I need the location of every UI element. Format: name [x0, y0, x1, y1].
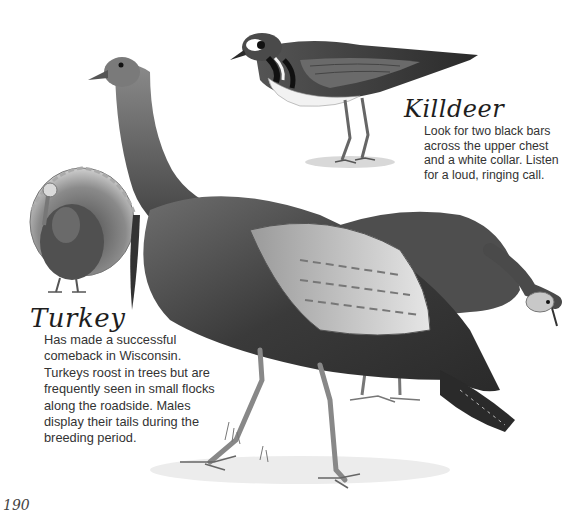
description-line: display their tails during the: [44, 414, 215, 430]
description-line: breeding period.: [44, 430, 215, 446]
description-line: for a loud, ringing call.: [424, 168, 559, 183]
species-title-killdeer: Killdeer: [404, 95, 504, 123]
species-description-killdeer: Look for two black bars across the upper…: [424, 124, 559, 182]
field-guide-page: Killdeer Look for two black bars across …: [0, 0, 581, 532]
description-line: along the roadside. Males: [44, 398, 215, 414]
bird-illustrations: [0, 0, 581, 532]
description-line: Look for two black bars: [424, 124, 559, 139]
description-line: frequently seen in small flocks: [44, 381, 215, 397]
description-line: across the upper chest: [424, 139, 559, 154]
species-description-turkey: Has made a successful comeback in Wiscon…: [44, 332, 215, 447]
page-number: 190: [3, 497, 30, 513]
description-line: Has made a successful: [44, 332, 215, 348]
description-line: comeback in Wisconsin.: [44, 348, 215, 364]
species-title-turkey: Turkey: [30, 303, 125, 333]
description-line: Turkeys roost in trees but are: [44, 365, 215, 381]
description-line: and a white collar. Listen: [424, 153, 559, 168]
displaying-turkey-illustration: [30, 168, 134, 292]
